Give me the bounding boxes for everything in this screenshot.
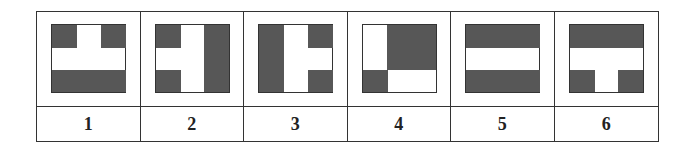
- figure-cell: [141, 12, 244, 107]
- pattern-square: [362, 24, 437, 93]
- dark-block: [466, 25, 491, 48]
- figure-label: 4: [348, 107, 451, 142]
- dark-block: [618, 70, 643, 93]
- pattern-square: [155, 24, 230, 93]
- dark-block: [411, 47, 436, 70]
- dark-block: [156, 70, 181, 93]
- dark-block: [101, 70, 126, 93]
- dark-block: [204, 25, 229, 48]
- dark-block: [387, 25, 412, 48]
- figure-column-5: 5: [451, 12, 555, 141]
- dark-block: [77, 70, 102, 93]
- dark-block: [308, 70, 333, 93]
- figure-label: 2: [141, 107, 244, 142]
- dark-block: [411, 25, 436, 48]
- dark-block: [204, 47, 229, 70]
- figure-label: 3: [244, 107, 347, 142]
- dark-block: [387, 47, 412, 70]
- dark-block: [491, 70, 516, 93]
- dark-block: [156, 25, 181, 48]
- figure-column-6: 6: [555, 12, 659, 141]
- dark-block: [570, 70, 595, 93]
- dark-block: [259, 47, 284, 70]
- figure-cell: [451, 12, 554, 107]
- dark-block: [101, 25, 126, 48]
- figure-label: 1: [37, 107, 140, 142]
- figure-table: 123456: [36, 11, 659, 142]
- figure-cell: [555, 12, 659, 107]
- figure-label: 6: [555, 107, 659, 142]
- figure-cell: [37, 12, 140, 107]
- figure-column-2: 2: [141, 12, 245, 141]
- dark-block: [259, 70, 284, 93]
- pattern-square: [569, 24, 644, 93]
- dark-block: [515, 25, 540, 48]
- dark-block: [52, 25, 77, 48]
- figure-cell: [348, 12, 451, 107]
- figure-column-1: 1: [37, 12, 141, 141]
- figure-column-4: 4: [348, 12, 452, 141]
- dark-block: [308, 25, 333, 48]
- dark-block: [594, 25, 619, 48]
- figure-label: 5: [451, 107, 554, 142]
- dark-block: [363, 70, 388, 93]
- dark-block: [570, 25, 595, 48]
- pattern-square: [51, 24, 126, 93]
- pattern-square: [258, 24, 333, 93]
- dark-block: [515, 70, 540, 93]
- pattern-square: [465, 24, 540, 93]
- dark-block: [491, 25, 516, 48]
- dark-block: [618, 25, 643, 48]
- figure-column-3: 3: [244, 12, 348, 141]
- dark-block: [466, 70, 491, 93]
- figure-cell: [244, 12, 347, 107]
- dark-block: [52, 70, 77, 93]
- dark-block: [259, 25, 284, 48]
- dark-block: [204, 70, 229, 93]
